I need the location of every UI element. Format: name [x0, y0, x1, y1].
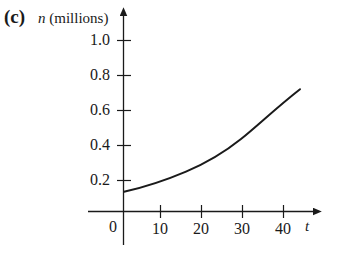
y-tick-label-0-4: 0.4: [66, 136, 110, 154]
y-axis-title: n (millions): [38, 10, 108, 27]
x-tick-label-10: 10: [142, 220, 178, 238]
x-axis-title: t: [305, 218, 309, 235]
panel-label: (c): [4, 6, 25, 28]
origin-label: 0: [103, 218, 123, 236]
data-curve: [124, 89, 300, 192]
y-tick-label-0-6: 0.6: [66, 101, 110, 119]
y-tick-label-1-0: 1.0: [66, 31, 110, 49]
x-tick-label-20: 20: [183, 220, 219, 238]
figure-panel-c: (c) n (millions) t 1.0 0.8 0.6 0.4 0.2 0…: [0, 0, 343, 267]
x-tick-label-30: 30: [224, 220, 260, 238]
y-tick-label-0-8: 0.8: [66, 66, 110, 84]
y-tick-label-0-2: 0.2: [66, 171, 110, 189]
x-tick-label-40: 40: [265, 220, 301, 238]
y-axis-variable: n: [38, 10, 46, 26]
y-axis-unit: (millions): [49, 10, 108, 26]
